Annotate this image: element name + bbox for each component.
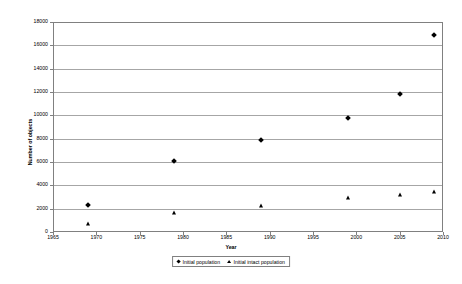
data-point-triangle <box>432 190 436 194</box>
diamond-marker-icon <box>176 259 180 263</box>
gridline <box>54 209 442 210</box>
data-point-triangle <box>346 196 350 200</box>
y-tick-label: 8000 <box>36 136 48 141</box>
x-tick-mark <box>400 232 401 235</box>
data-point-triangle <box>259 204 263 208</box>
x-tick-mark <box>183 232 184 235</box>
x-tick-label: 1970 <box>91 235 103 240</box>
legend-entry-initial-intact-population: Initial intact population <box>227 259 285 265</box>
data-point-triangle <box>172 211 176 215</box>
x-tick-mark <box>226 232 227 235</box>
gridline <box>54 139 442 140</box>
y-tick-label: 6000 <box>36 159 48 164</box>
y-tick-label: 10000 <box>34 113 48 118</box>
y-tick-label: 16000 <box>34 43 48 48</box>
x-tick-mark <box>443 232 444 235</box>
x-tick-label: 2010 <box>437 235 449 240</box>
x-tick-mark <box>356 232 357 235</box>
x-tick-label: 1985 <box>221 235 233 240</box>
x-tick-label: 2005 <box>394 235 406 240</box>
x-tick-mark <box>270 232 271 235</box>
legend-label: Initial intact population <box>234 259 285 265</box>
plot-area <box>53 22 443 232</box>
x-axis-title: Year <box>0 244 462 250</box>
y-tick-mark <box>50 92 53 93</box>
y-tick-mark <box>50 115 53 116</box>
y-axis-title: Number of objects <box>27 119 33 166</box>
y-tick-label: 12000 <box>34 89 48 94</box>
chart-legend: Initial population Initial intact popula… <box>172 256 290 267</box>
gridline <box>54 115 442 116</box>
y-tick-label: 14000 <box>34 66 48 71</box>
x-tick-label: 1975 <box>134 235 146 240</box>
legend-entry-initial-population: Initial population <box>177 259 220 265</box>
y-tick-mark <box>50 69 53 70</box>
x-tick-label: 2000 <box>351 235 363 240</box>
gridline <box>54 45 442 46</box>
x-tick-mark <box>53 232 54 235</box>
y-tick-mark <box>50 139 53 140</box>
x-tick-mark <box>313 232 314 235</box>
y-tick-mark <box>50 162 53 163</box>
gridline <box>54 162 442 163</box>
data-point-triangle <box>86 221 90 225</box>
y-tick-mark <box>50 209 53 210</box>
y-tick-mark <box>50 22 53 23</box>
y-tick-label: 4000 <box>36 183 48 188</box>
x-tick-label: 1995 <box>307 235 319 240</box>
triangle-marker-icon <box>227 260 231 263</box>
gridline <box>54 92 442 93</box>
gridline <box>54 69 442 70</box>
y-tick-label: 18000 <box>34 19 48 24</box>
x-tick-label: 1980 <box>177 235 189 240</box>
gridline <box>54 185 442 186</box>
x-tick-mark <box>96 232 97 235</box>
y-tick-mark <box>50 45 53 46</box>
scatter-chart: Number of objects 0200040006000800010000… <box>0 0 462 284</box>
x-tick-mark <box>140 232 141 235</box>
x-tick-label: 1990 <box>264 235 276 240</box>
x-tick-label: 1965 <box>47 235 59 240</box>
y-tick-label: 2000 <box>36 206 48 211</box>
y-tick-mark <box>50 185 53 186</box>
data-point-triangle <box>398 192 402 196</box>
legend-label: Initial population <box>183 259 221 265</box>
